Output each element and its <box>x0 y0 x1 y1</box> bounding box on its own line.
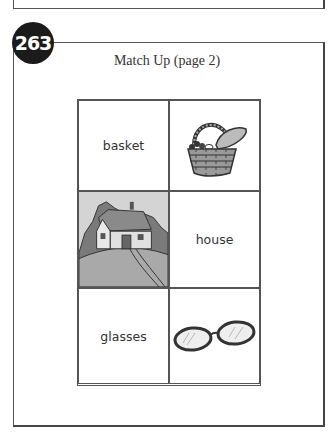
picture-cell-basket[interactable] <box>169 100 260 191</box>
previous-page-box <box>13 0 325 9</box>
word-cell-basket[interactable]: basket <box>78 100 169 191</box>
word-cell-glasses[interactable]: glasses <box>78 288 169 384</box>
worksheet-title: Match Up (page 2) <box>0 53 334 69</box>
word-label: house <box>196 232 234 247</box>
word-label: glasses <box>100 329 146 344</box>
picture-cell-house[interactable] <box>78 191 169 288</box>
match-grid: basket house <box>77 99 261 386</box>
picture-cell-glasses[interactable] <box>169 288 260 384</box>
word-label: basket <box>103 138 145 153</box>
word-cell-house[interactable]: house <box>169 191 260 288</box>
basket-icon <box>180 113 250 179</box>
house-icon <box>79 191 168 288</box>
glasses-icon <box>173 319 257 353</box>
